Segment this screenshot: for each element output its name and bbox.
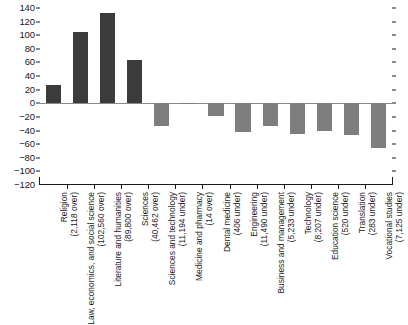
bar: [371, 103, 386, 148]
y-axis-tick-mark-right: [392, 8, 396, 9]
y-axis-tick-mark-right: [392, 21, 396, 22]
bar: [263, 103, 278, 126]
y-axis-tick-label: −120: [14, 180, 35, 190]
y-axis-tick-label: 140: [19, 3, 35, 13]
x-axis-category-label: Engineering(11,490 under): [250, 192, 269, 246]
category-count: (5,233 under): [286, 192, 296, 294]
x-axis-category-label: Law, economics, and social science(102,5…: [87, 192, 106, 325]
category-count: (7,125 under): [395, 192, 405, 260]
y-axis-tick-mark-right: [392, 103, 396, 104]
bar: [235, 103, 250, 132]
category-count: (89,800 over): [124, 192, 134, 287]
y-axis-tick-label: 60: [25, 58, 35, 68]
axis-corner-right: [392, 177, 393, 185]
x-axis-category-label: Education science(520 under): [331, 192, 350, 260]
x-axis-tick-mark: [284, 185, 285, 189]
category-name: Technology: [304, 192, 314, 242]
x-axis-tick-mark: [175, 185, 176, 189]
bar: [290, 103, 305, 134]
x-axis-tick-mark: [338, 185, 339, 189]
x-axis-category-label: Translation(283 under): [358, 192, 377, 235]
category-name: Dental medicine: [223, 192, 233, 252]
plot-area: 140120100806040200−20−40−60−80−100−120: [40, 8, 392, 185]
x-axis-category-label: Business and management(5,233 under): [277, 192, 296, 294]
category-count: (11,194 under): [178, 192, 188, 285]
y-axis-tick-label: 100: [19, 30, 35, 40]
x-axis-category-label: Medicine and pharmacy(14 over): [195, 192, 214, 281]
y-axis-tick-label: −40: [19, 126, 35, 136]
x-axis-tick-mark: [230, 185, 231, 189]
bar: [317, 103, 332, 130]
bar: [100, 13, 115, 104]
y-axis-tick-mark-right: [392, 144, 396, 145]
x-axis-labels: Religion(2,118 over)Law, economics, and …: [40, 192, 392, 322]
y-axis-tick-label: 120: [19, 17, 35, 27]
x-axis-category-label: Religion(2,118 over): [60, 192, 79, 237]
category-count: (283 under): [367, 192, 377, 235]
x-axis-tick-mark: [365, 185, 366, 189]
category-count: (102,560 over): [97, 192, 107, 325]
x-axis-category-label: Vocational studies(7,125 under): [385, 192, 404, 260]
y-axis-tick-mark-right: [392, 48, 396, 49]
y-axis-tick-mark-right: [392, 171, 396, 172]
y-axis-tick-label: 40: [25, 71, 35, 81]
category-count: (14 over): [205, 192, 215, 281]
y-axis-tick-label: −60: [19, 139, 35, 149]
bar: [46, 85, 61, 103]
y-axis-tick-mark-right: [392, 62, 396, 63]
x-axis-tick-mark: [202, 185, 203, 189]
bar: [154, 103, 169, 125]
category-count: (40,462 over): [151, 192, 161, 242]
category-count: (8,207 under): [313, 192, 323, 242]
category-count: (520 under): [340, 192, 350, 260]
x-axis-tick-mark: [257, 185, 258, 189]
category-name: Business and management: [277, 192, 287, 294]
category-count: (11,490 under): [259, 192, 269, 246]
y-axis-tick-mark-right: [392, 157, 396, 158]
category-count: (406 under): [232, 192, 242, 252]
y-axis-tick-label: −80: [19, 153, 35, 163]
y-axis-tick-label: 0: [30, 99, 35, 109]
x-axis-category-label: Sciences and technology(11,194 under): [168, 192, 187, 285]
x-axis-tick-mark: [94, 185, 95, 189]
y-axis-tick-label: −100: [14, 167, 35, 177]
x-axis-category-label: Literature and humanities(89,800 over): [114, 192, 133, 287]
x-axis-tick-mark: [148, 185, 149, 189]
x-axis-category-label: Sciences(40,462 over): [141, 192, 160, 242]
x-axis-category-label: Technology(8,207 under): [304, 192, 323, 242]
x-axis-category-label: Dental medicine(406 under): [223, 192, 242, 252]
bar: [127, 60, 142, 104]
x-axis-tick-mark: [67, 185, 68, 189]
y-axis-tick-label: −20: [19, 112, 35, 122]
y-axis-tick-label: 20: [25, 85, 35, 95]
bars-layer: [40, 8, 392, 185]
x-axis-tick-mark: [121, 185, 122, 189]
y-axis-tick-mark-right: [392, 130, 396, 131]
y-axis-tick-mark-right: [392, 89, 396, 90]
bar: [208, 103, 223, 116]
category-name: Engineering: [250, 192, 260, 246]
y-axis-tick-mark-right: [392, 116, 396, 117]
category-count: (2,118 over): [70, 192, 80, 237]
bar: [344, 103, 359, 135]
category-name: Education science: [331, 192, 341, 260]
y-axis-tick-mark-right: [392, 76, 396, 77]
y-axis-tick-label: 80: [25, 44, 35, 54]
bar: [73, 32, 88, 103]
x-axis-tick-mark: [311, 185, 312, 189]
bar: [181, 103, 196, 104]
y-axis-tick-mark-right: [392, 35, 396, 36]
